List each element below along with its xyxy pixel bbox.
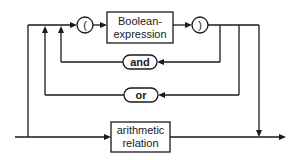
arrow-right-icon	[70, 22, 77, 28]
arrow-left-icon	[157, 59, 164, 65]
arrow-down-icon	[256, 130, 262, 137]
boolean-expression-line2: expression	[113, 28, 166, 40]
arrow-right-icon	[100, 22, 107, 28]
arrow-up-icon	[42, 26, 48, 33]
boolean-expression-line1: Boolean-	[118, 15, 162, 27]
arrow-left-icon	[158, 92, 165, 98]
open-paren-label: (	[83, 19, 87, 31]
arithmetic-relation-line1: arithmetic	[117, 124, 165, 136]
arrow-right-icon	[185, 22, 192, 28]
and-keyword-label: and	[130, 56, 150, 68]
or-keyword-label: or	[136, 89, 148, 101]
arrow-up-icon	[58, 26, 64, 33]
exit-arrow-icon	[279, 134, 286, 140]
arrow-right-icon	[104, 134, 111, 140]
close-paren-label: )	[198, 19, 202, 31]
arithmetic-relation-line2: relation	[122, 137, 158, 149]
syntax-diagram: ( Boolean- expression ) and or arithmeti…	[0, 0, 298, 160]
